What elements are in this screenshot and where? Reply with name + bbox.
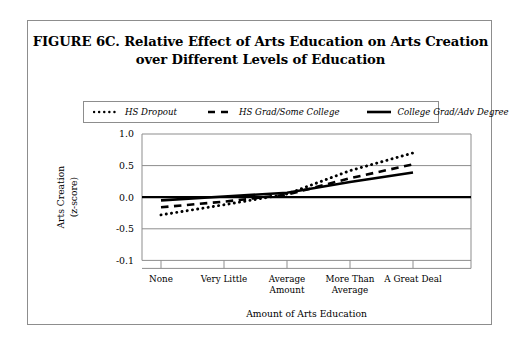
x-category-label-2-0: Average [268,274,305,284]
x-category-label-1-0: Very Little [200,274,247,284]
x-category-label-0-0: None [149,274,173,284]
y-axis-title: Arts Creation(z-score) [55,166,79,230]
series-line-0 [161,153,413,215]
y-tick-label-1: 0.5 [119,160,134,171]
y-tick-label-0: 1.0 [119,128,134,139]
x-axis-title-text: Amount of Arts Education [245,308,367,319]
y-tick-labels: 1.00.50.0-0.5-0.1 [116,128,134,265]
x-axis-ticks [142,134,471,268]
x-category-label-3-1: Average [331,285,368,295]
y-tick-label-2: 0.0 [119,192,134,203]
data-series [161,153,413,215]
y-axis-title-line-1: (z-score) [68,177,79,217]
chart-plot-area: 1.00.50.0-0.5-0.1 NoneVery LittleAverage… [28,21,493,326]
y-tick-label-3: -0.5 [116,223,134,234]
x-category-labels: NoneVery LittleAverageAmountMore ThanAve… [149,274,442,295]
x-category-label-2-1: Amount [269,285,305,295]
series-line-1 [161,164,413,207]
x-category-label-4-0: A Great Deal [383,274,442,284]
x-axis-title: Amount of Arts Education [245,308,367,319]
y-tick-label-4: -0.1 [116,255,134,266]
x-category-label-3-0: More Than [326,274,375,284]
y-axis-title-line-0: Arts Creation [55,166,66,230]
figure-frame: FIGURE 6C. Relative Effect of Arts Educa… [27,20,492,325]
